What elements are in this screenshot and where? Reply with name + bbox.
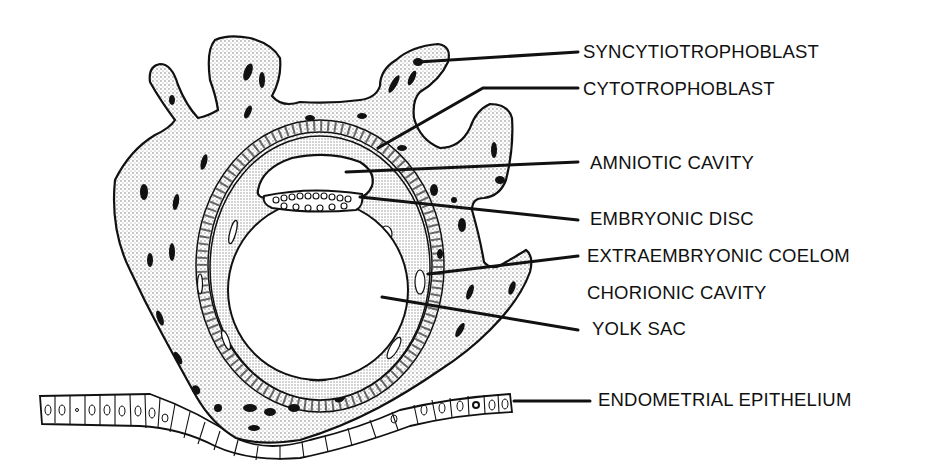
label-chorionic-cavity: CHORIONIC CAVITY xyxy=(587,282,767,303)
label-embryonic-disc: EMBRYONIC DISC xyxy=(590,208,754,229)
label-syncytiotrophoblast: SYNCYTIOTROPHOBLAST xyxy=(583,41,819,62)
label-amniotic-cavity: AMNIOTIC CAVITY xyxy=(590,152,754,173)
blastocyst-diagram: SYNCYTIOTROPHOBLAST CYTOTROPHOBLAST AMNI… xyxy=(0,0,938,469)
label-endometrial-epithelium: ENDOMETRIAL EPITHELIUM xyxy=(598,389,852,410)
label-extraembryonic-coelom: EXTRAEMBRYONIC COELOM xyxy=(587,245,850,266)
embryonic-disc-shape xyxy=(264,190,363,211)
label-yolk-sac: YOLK SAC xyxy=(592,318,686,339)
labels: SYNCYTIOTROPHOBLAST CYTOTROPHOBLAST AMNI… xyxy=(583,41,852,410)
label-cytotrophoblast: CYTOTROPHOBLAST xyxy=(583,78,775,99)
yolk-sac-shape xyxy=(228,200,408,380)
